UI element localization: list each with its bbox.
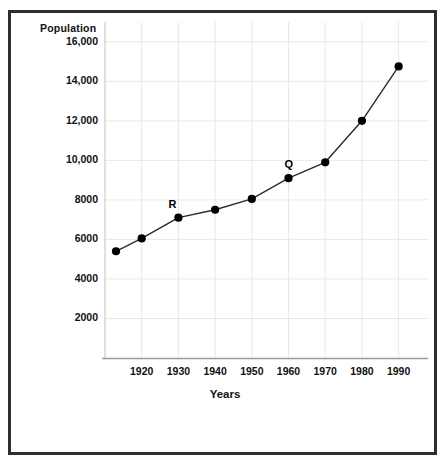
data-point-marker: [174, 214, 182, 222]
point-label-r: R: [168, 198, 176, 210]
y-axis-title: Population: [40, 22, 96, 34]
vertical-gridlines: [142, 22, 399, 358]
population-series-markers: [112, 62, 403, 255]
x-axis-title: Years: [165, 388, 285, 400]
y-tick-label: 4000: [30, 272, 98, 284]
y-tick-label: 12,000: [30, 114, 98, 126]
y-tick-label: 16,000: [30, 35, 98, 47]
data-point-marker: [358, 117, 366, 125]
y-tick-label: 10,000: [30, 153, 98, 165]
y-tick-label: 8000: [30, 193, 98, 205]
data-point-marker: [248, 195, 256, 203]
population-series-line: [116, 66, 399, 251]
y-tick-label: 2000: [30, 311, 98, 323]
data-point-marker: [211, 206, 219, 214]
data-point-marker: [112, 247, 120, 255]
x-tick-label: 1990: [377, 365, 421, 377]
data-point-marker: [395, 62, 403, 70]
data-point-marker: [138, 234, 146, 242]
point-label-q: Q: [285, 158, 294, 170]
data-point-marker: [321, 158, 329, 166]
y-tick-label: 14,000: [30, 74, 98, 86]
horizontal-gridlines: [105, 42, 428, 319]
y-tick-label: 6000: [30, 232, 98, 244]
data-point-marker: [284, 174, 292, 182]
